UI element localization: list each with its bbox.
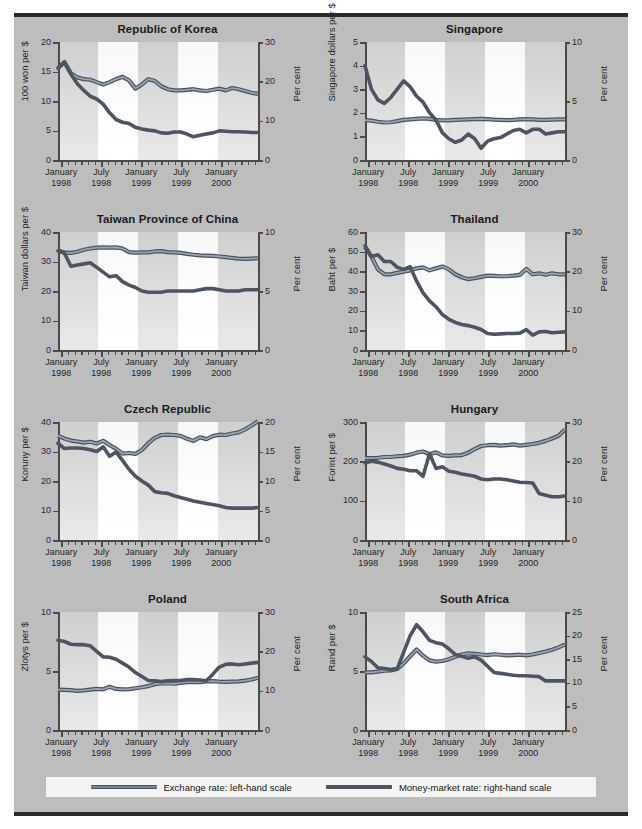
- y-tick-label-left: 0: [46, 726, 51, 735]
- plot-area: 0102030400510January1998July1998January1…: [58, 232, 258, 350]
- y-tick-label-left: 60: [348, 228, 358, 237]
- y-tick-label-left: 5: [353, 667, 358, 676]
- x-tick: [428, 161, 429, 165]
- x-tick: [135, 541, 136, 545]
- x-tick: [128, 541, 129, 545]
- x-tick: [375, 351, 376, 355]
- series-layer: [58, 42, 258, 160]
- x-tick: [121, 351, 122, 355]
- x-tick: [382, 541, 383, 545]
- x-tick: [455, 351, 456, 355]
- x-tick: [482, 541, 483, 545]
- x-tick: [455, 161, 456, 165]
- chart-panel: Singapore0123450510January1998July1998Ja…: [321, 17, 628, 207]
- x-tick-label-year: 2000: [518, 748, 538, 758]
- x-tick: [235, 541, 236, 545]
- x-tick: [255, 351, 256, 355]
- x-tick-label: January2000: [500, 357, 556, 378]
- x-tick: [388, 351, 389, 355]
- y-tick-label-left: 20: [41, 477, 51, 486]
- series-layer: [58, 232, 258, 350]
- x-tick: [415, 541, 416, 545]
- x-tick: [375, 541, 376, 545]
- x-tick-label-year: 2000: [211, 178, 231, 188]
- x-tick-label-month: July: [93, 167, 109, 177]
- x-tick: [248, 161, 249, 165]
- x-tick: [562, 541, 563, 545]
- legend-swatch-money-market-rate: [326, 785, 392, 790]
- x-tick: [415, 731, 416, 735]
- x-tick: [108, 351, 109, 355]
- x-tick: [375, 161, 376, 165]
- y-tick-right: [565, 636, 570, 638]
- x-tick: [115, 161, 116, 165]
- series-line-money-market-rate: [58, 443, 258, 508]
- x-tick: [155, 541, 156, 545]
- x-tick: [495, 161, 496, 165]
- x-tick: [168, 161, 169, 165]
- y-tick-left: [360, 350, 365, 352]
- x-tick: [208, 541, 209, 545]
- panel-title: Republic of Korea: [14, 23, 321, 35]
- y-tick-right: [565, 311, 570, 313]
- x-tick: [542, 731, 543, 735]
- panel-title: South Africa: [321, 593, 628, 605]
- y-tick-label-right: 0: [572, 156, 577, 165]
- x-tick-label-year: 1999: [438, 178, 458, 188]
- y-tick-label-right: 10: [572, 38, 582, 47]
- x-tick: [522, 161, 523, 165]
- x-tick: [241, 161, 242, 165]
- x-tick-label-year: 1998: [358, 368, 378, 378]
- x-tick: [508, 161, 509, 165]
- x-tick: [88, 351, 89, 355]
- x-tick: [128, 351, 129, 355]
- y-tick-left: [360, 160, 365, 162]
- x-tick: [462, 161, 463, 165]
- y-axis-right: [258, 612, 260, 730]
- x-tick-label-year: 1998: [51, 748, 71, 758]
- legend-label-money-market-rate: Money-market rate: right-hand scale: [399, 782, 552, 793]
- x-tick-label-year: 2000: [518, 178, 538, 188]
- panel-title: Thailand: [321, 213, 628, 225]
- x-tick: [428, 351, 429, 355]
- plot-area: 051015200102030January1998July1998Januar…: [58, 42, 258, 160]
- x-tick-label-month: July: [400, 737, 416, 747]
- y-tick-label-right: 5: [265, 506, 270, 515]
- x-tick: [75, 351, 76, 355]
- x-tick: [515, 541, 516, 545]
- y-tick-label-right: 10: [265, 116, 275, 125]
- y-tick-label-right: 25: [572, 608, 582, 617]
- x-tick-label-year: 1998: [358, 558, 378, 568]
- x-tick: [468, 541, 469, 545]
- y-tick-right: [565, 350, 570, 352]
- y-tick-label-right: 30: [572, 418, 582, 427]
- y-tick-label-left: 200: [343, 457, 358, 466]
- x-tick: [442, 731, 443, 735]
- y-tick-right: [565, 160, 570, 162]
- x-tick-label-month: July: [93, 737, 109, 747]
- x-tick: [68, 541, 69, 545]
- y-tick-label-left: 3: [353, 85, 358, 94]
- x-tick: [121, 161, 122, 165]
- x-tick: [155, 161, 156, 165]
- panel-title: Hungary: [321, 403, 628, 415]
- x-tick: [388, 731, 389, 735]
- x-tick: [188, 541, 189, 545]
- x-tick: [155, 731, 156, 735]
- plot-area: 01020304005101520January1998July1998Janu…: [58, 422, 258, 540]
- x-tick: [228, 731, 229, 735]
- x-tick: [462, 731, 463, 735]
- x-tick: [555, 731, 556, 735]
- x-tick: [515, 731, 516, 735]
- x-tick: [228, 161, 229, 165]
- chart-figure: Republic of Korea051015200102030January1…: [14, 13, 628, 816]
- y-tick-label-left: 50: [348, 247, 358, 256]
- y-tick-right: [565, 271, 570, 273]
- series-layer: [365, 232, 565, 350]
- x-tick-label-month: July: [480, 167, 496, 177]
- x-tick: [135, 731, 136, 735]
- x-tick: [108, 541, 109, 545]
- x-tick: [475, 161, 476, 165]
- y-tick-label-left: 20: [348, 306, 358, 315]
- x-tick: [382, 161, 383, 165]
